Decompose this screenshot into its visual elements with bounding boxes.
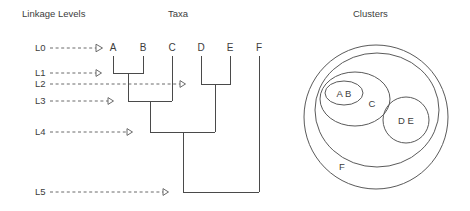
level-guide-L1	[50, 70, 102, 77]
taxon-label-B: B	[140, 42, 147, 53]
level-label-L5: L5	[35, 186, 46, 197]
cluster-label-C: C	[369, 98, 376, 109]
heading-linkage-levels: Linkage Levels	[22, 8, 86, 19]
cluster-label-F: F	[339, 161, 345, 172]
merge-node-AB-C	[128, 101, 172, 132]
cluster-label-AB: A B	[337, 88, 352, 99]
dendrogram-cluster-figure: Linkage Levels Taxa Clusters L0 L1 L2 L3…	[0, 0, 470, 211]
level-guide-L3	[50, 98, 114, 105]
taxon-label-D: D	[197, 42, 204, 53]
figure-canvas: Linkage Levels Taxa Clusters L0 L1 L2 L3…	[0, 0, 470, 211]
taxon-label-F: F	[256, 42, 262, 53]
merge-node-ABC-DE	[150, 132, 215, 192]
level-label-L4: L4	[35, 126, 46, 137]
taxon-label-E: E	[227, 42, 234, 53]
level-guide-L5	[50, 189, 169, 196]
merge-node-D-E	[201, 56, 230, 132]
merge-node-A-B	[113, 56, 143, 101]
level-label-L3: L3	[35, 95, 46, 106]
level-label-L2: L2	[35, 78, 46, 89]
taxon-label-A: A	[110, 42, 117, 53]
taxon-label-C: C	[168, 42, 175, 53]
level-label-L0: L0	[35, 42, 46, 53]
cluster-label-DE: D E	[398, 115, 414, 126]
level-guide-L0	[50, 44, 103, 52]
level-label-L1: L1	[35, 67, 46, 78]
level-guide-L4	[50, 129, 133, 136]
level-guide-L2	[50, 81, 186, 88]
heading-taxa: Taxa	[168, 8, 189, 19]
heading-clusters: Clusters	[353, 8, 388, 19]
